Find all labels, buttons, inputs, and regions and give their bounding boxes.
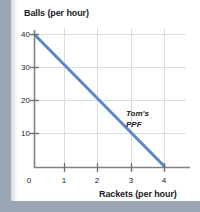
y-tick-label-10: 10 xyxy=(14,129,30,138)
y-tick-label-20: 20 xyxy=(14,96,30,105)
ppf-annotation: Tom's PPF xyxy=(126,108,149,130)
ppf-annotation-line1: Tom's xyxy=(126,108,149,119)
x-tick-label-1: 1 xyxy=(58,176,70,185)
x-axis-title: Rackets (per hour) xyxy=(99,189,177,199)
screenshot-root: Balls (per hour) Rackets (per hour) 40 3… xyxy=(0,0,200,212)
x-tick-label-3: 3 xyxy=(125,176,137,185)
vertical-gridlines xyxy=(65,28,165,167)
y-tick-label-30: 30 xyxy=(14,63,30,72)
x-tick-label-4: 4 xyxy=(158,176,170,185)
y-tick-label-40: 40 xyxy=(14,30,30,39)
y-axis-title: Balls (per hour) xyxy=(24,8,89,18)
horizontal-gridlines xyxy=(34,35,186,134)
origin-label: 0 xyxy=(23,176,35,185)
ppf-annotation-line2: PPF xyxy=(126,119,149,130)
x-tick-label-2: 2 xyxy=(91,176,103,185)
